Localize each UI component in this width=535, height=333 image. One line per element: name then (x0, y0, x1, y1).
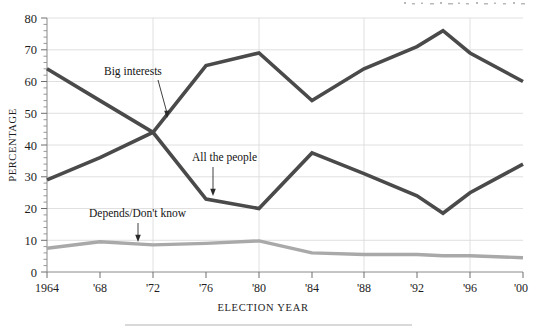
x-tick-label: '80 (252, 281, 266, 295)
y-tick-label: 60 (25, 75, 38, 89)
y-tick-label: 30 (25, 170, 38, 184)
x-tick-label: '96 (463, 281, 477, 295)
x-tick-label: '76 (199, 281, 213, 295)
y-tick-label: 0 (31, 266, 37, 280)
annotation-all-the-people: All the people (192, 151, 257, 196)
x-tick-label: '92 (410, 281, 424, 295)
annotation-label: All the people (192, 151, 257, 164)
annotation-depends-dont-know: Depends/Don't know (89, 207, 187, 242)
scan-artifact (404, 2, 525, 5)
y-tick-label: 10 (25, 234, 38, 248)
x-axis-ticks (47, 272, 523, 278)
x-axis-tick-labels: 1964 '68 '72 '76 '80 '84 '88 '92 '96 '00 (35, 281, 528, 295)
x-tick-label: 1964 (35, 281, 59, 295)
y-axis-title: PERCENTAGE (7, 108, 18, 181)
arrowhead-icon (210, 189, 216, 196)
y-tick-label: 20 (25, 202, 38, 216)
x-tick-label: '88 (357, 281, 371, 295)
annotation-label: Big interests (104, 65, 162, 78)
x-tick-label: '84 (305, 281, 319, 295)
series-depends-dont-know (47, 241, 523, 258)
x-tick-label: '72 (146, 281, 160, 295)
x-tick-label: '68 (93, 281, 107, 295)
y-tick-label: 40 (25, 139, 38, 153)
annotation-label: Depends/Don't know (89, 207, 187, 220)
x-tick-label: '00 (514, 281, 528, 295)
line-chart-svg: 80 70 60 50 40 30 20 10 0 PERCENTAGE (0, 0, 535, 333)
y-tick-label: 50 (25, 107, 38, 121)
y-axis-tick-labels: 80 70 60 50 40 30 20 10 0 (25, 12, 38, 280)
chart-container: 80 70 60 50 40 30 20 10 0 PERCENTAGE (0, 0, 535, 333)
series-all-the-people (47, 132, 523, 213)
arrowhead-icon (135, 235, 141, 242)
x-axis-title: ELECTION YEAR (217, 302, 308, 313)
y-tick-label: 70 (25, 43, 38, 57)
y-tick-label: 80 (25, 12, 38, 26)
